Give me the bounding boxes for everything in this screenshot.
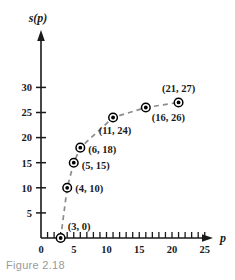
x-axis-ticks bbox=[48, 232, 205, 238]
data-point-label: (21, 27) bbox=[162, 83, 196, 95]
x-tick-label: 5 bbox=[71, 244, 76, 255]
y-tick-label: 30 bbox=[22, 82, 33, 93]
data-point-label: (3, 0) bbox=[68, 221, 91, 233]
x-axis-arrowhead bbox=[202, 234, 213, 242]
data-point-marker bbox=[63, 184, 72, 193]
x-axis-tick-labels: 0510152025 bbox=[38, 244, 210, 255]
x-tick-label: 15 bbox=[134, 244, 145, 255]
data-point-marker bbox=[56, 234, 65, 243]
data-point-label: (5, 15) bbox=[82, 160, 110, 172]
x-axis-label: p bbox=[219, 231, 226, 245]
y-tick-label: 5 bbox=[27, 208, 32, 219]
data-point-marker bbox=[69, 158, 78, 167]
y-tick-label: 10 bbox=[22, 183, 33, 194]
y-tick-label: 15 bbox=[22, 158, 33, 169]
data-point-marker bbox=[76, 143, 85, 152]
data-point-label: (4, 10) bbox=[75, 183, 103, 195]
y-axis-arrowhead bbox=[37, 30, 45, 41]
x-tick-label: 25 bbox=[200, 244, 211, 255]
y-tick-label: 25 bbox=[22, 107, 33, 118]
y-axis-label: s(p) bbox=[28, 11, 48, 25]
data-point-marker bbox=[142, 103, 151, 112]
data-point-marker bbox=[174, 98, 183, 107]
figure-container: 0510152025 51015202530 (3, 0)(4, 10)(5, … bbox=[0, 0, 235, 280]
x-tick-label: 20 bbox=[167, 244, 178, 255]
data-point-label: (16, 26) bbox=[152, 112, 186, 124]
y-axis-tick-labels: 51015202530 bbox=[22, 82, 33, 219]
x-tick-label: 0 bbox=[38, 244, 43, 255]
x-tick-label: 10 bbox=[101, 244, 112, 255]
y-tick-label: 20 bbox=[22, 132, 33, 143]
scatter-plot: 0510152025 51015202530 (3, 0)(4, 10)(5, … bbox=[0, 0, 235, 280]
data-point-marker bbox=[109, 113, 118, 122]
figure-caption: Figure 2.18 bbox=[6, 259, 65, 271]
data-point-label: (11, 24) bbox=[99, 125, 132, 137]
data-point-label: (6, 18) bbox=[88, 144, 116, 156]
